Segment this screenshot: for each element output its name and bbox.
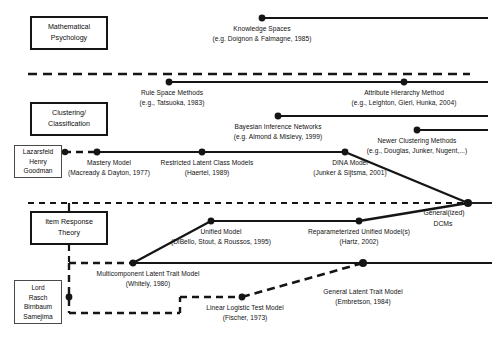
figure-canvas: Mathematical Psychology Clustering/ Clas… [0, 0, 497, 339]
generalized-dcms-line2: DCMs [434, 220, 453, 227]
clustering-classification-line2: Classification [48, 119, 90, 130]
mathematical-psychology-line1: Mathematical [48, 22, 90, 33]
attribute-hierarchy-method-dot [401, 79, 408, 86]
general-latent-trait-model-citation: (Embretson, 1984) [323, 297, 402, 307]
mastery-model-dot [94, 149, 101, 156]
general-latent-trait-model-name: General Latent Trait Model [323, 288, 402, 295]
node-label-attribute-hierarchy-method[interactable]: Attribute Hierarchy Method (e.g., Leight… [352, 88, 457, 107]
convergence-label-dcms-second-line[interactable]: DCMs [434, 219, 453, 230]
newer-clustering-methods-dot [414, 127, 421, 134]
node-label-general-latent-trait-model[interactable]: General Latent Trait Model (Embretson, 1… [323, 287, 402, 306]
knowledge-spaces-dot [259, 15, 266, 22]
lazarsfeld-line1: Lazarsfeld [23, 147, 53, 157]
multicomponent-latent-trait-model-dot [130, 260, 137, 267]
newer-clustering-methods-name: Newer Clustering Methods [378, 137, 457, 144]
item-response-theory-line1: Item Response [45, 217, 93, 228]
node-label-restricted-latent-class-models[interactable]: Restricted Latent Class Models (Haertel,… [161, 158, 254, 177]
lord-line1: Lord [31, 283, 44, 293]
bayesian-inference-networks-dot [275, 113, 282, 120]
node-label-bayesian-inference-networks[interactable]: Bayesian Inference Networks (e.g. Almond… [234, 122, 323, 141]
tradition-box-lord-rasch-birnbaum-samejima[interactable]: Lord Rasch Birnbaum Samejima [14, 280, 62, 324]
lord-line2: Rasch [29, 293, 48, 303]
mastery-model-citation: (Macready & Dayton, 1977) [68, 168, 150, 178]
item-response-theory-line2: Theory [58, 228, 80, 239]
tradition-box-lazarsfeld-henry-goodman[interactable]: Lazarsfeld Henry Goodman [14, 145, 62, 178]
node-label-linear-logistic-test-model[interactable]: Linear Logistic Test Model (Fischer, 197… [206, 303, 283, 322]
multicomponent-latent-trait-model-citation: (Whitely, 1980) [97, 279, 200, 289]
knowledge-spaces-citation: (e.g. Doignon & Falmagne, 1985) [212, 34, 311, 44]
node-label-unified-model[interactable]: Unified Model (DiBello, Stout, & Roussos… [171, 227, 271, 246]
node-label-reparameterized-unified-model[interactable]: Reparameterized Unified Model(s) (Hartz,… [308, 227, 410, 246]
mastery-model-name: Mastery Model [87, 159, 131, 166]
generalized-dcms-dot [464, 199, 472, 207]
rasch-origin-dot [66, 294, 73, 301]
lazarsfeld-line2: Henry [29, 157, 47, 167]
dina-model-citation: (Junker & Sijtsma, 2001) [313, 168, 386, 178]
reparameterized-unified-model-citation: (Hartz, 2002) [308, 237, 410, 247]
node-label-rule-space-methods[interactable]: Rule Space Methods (e.g., Tatsuoka, 1983… [140, 88, 205, 107]
restricted-latent-class-models-name: Restricted Latent Class Models [161, 159, 254, 166]
restricted-latent-class-models-citation: (Haertel, 1989) [161, 168, 254, 178]
newer-clustering-methods-citation: (e.g., Douglas, Junker, Nugent,...) [367, 146, 467, 156]
multicomponent-latent-trait-model-name: Multicomponent Latent Trait Model [97, 270, 200, 277]
convergence-label-generalized-dcms[interactable]: General(ized) [423, 208, 464, 219]
knowledge-spaces-name: Knowledge Spaces [233, 25, 290, 32]
node-label-dina-model[interactable]: DINA Model (Junker & Sijtsma, 2001) [313, 158, 386, 177]
reparameterized-unified-model-name: Reparameterized Unified Model(s) [308, 228, 410, 235]
lazarsfeld-line3: Goodman [24, 166, 53, 176]
attribute-hierarchy-method-name: Attribute Hierarchy Method [364, 89, 444, 96]
node-label-multicomponent-latent-trait-model[interactable]: Multicomponent Latent Trait Model (White… [97, 269, 200, 288]
bayesian-inference-networks-citation: (e.g. Almond & Mislevy, 1999) [234, 132, 323, 142]
lord-line4: Samejima [23, 312, 52, 322]
dina-model-name: DINA Model [332, 159, 368, 166]
tradition-box-clustering-classification[interactable]: Clustering/ Classification [30, 102, 108, 136]
unified-model-citation: (DiBello, Stout, & Roussos, 1995) [171, 237, 271, 247]
restricted-latent-class-models-dot [199, 149, 206, 156]
unified-model-dot [208, 218, 215, 225]
lord-line3: Birnbaum [24, 302, 52, 312]
bayesian-inference-networks-name: Bayesian Inference Networks [234, 123, 321, 130]
unified-model-name: Unified Model [201, 228, 242, 235]
rule-space-methods-name: Rule Space Methods [141, 89, 203, 96]
node-label-mastery-model[interactable]: Mastery Model (Macready & Dayton, 1977) [68, 158, 150, 177]
tradition-box-mathematical-psychology[interactable]: Mathematical Psychology [30, 16, 108, 50]
mathematical-psychology-line2: Psychology [51, 33, 87, 44]
rule-space-methods-dot [166, 79, 173, 86]
linear-logistic-test-model-citation: (Fischer, 1973) [206, 313, 283, 323]
attribute-hierarchy-method-citation: (e.g., Leighton, Gierl, Hunka, 2004) [352, 98, 457, 108]
rule-space-methods-citation: (e.g., Tatsuoka, 1983) [140, 98, 205, 108]
node-label-newer-clustering-methods[interactable]: Newer Clustering Methods (e.g., Douglas,… [367, 136, 467, 155]
lazarsfeld-origin-dot [62, 149, 68, 155]
node-label-knowledge-spaces[interactable]: Knowledge Spaces (e.g. Doignon & Falmagn… [212, 24, 311, 43]
clustering-classification-line1: Clustering/ [52, 108, 86, 119]
tradition-box-item-response-theory[interactable]: Item Response Theory [30, 211, 108, 245]
linear-logistic-test-model-name: Linear Logistic Test Model [206, 304, 283, 311]
generalized-dcms-line1: General(ized) [423, 209, 464, 216]
